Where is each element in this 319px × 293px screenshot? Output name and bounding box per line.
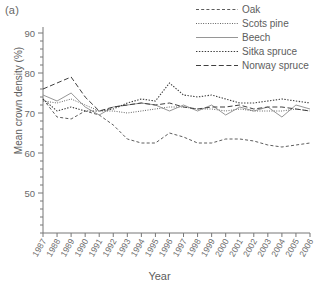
series-line-oak	[43, 99, 310, 147]
series-line-scots-pine	[43, 99, 310, 113]
chart-plot-area: 5060708090198719881989199019911992199319…	[0, 0, 319, 293]
y-axis-tick-label: 90	[24, 28, 35, 39]
y-axis-tick-label: 80	[24, 68, 35, 79]
y-axis-tick-label: 50	[24, 188, 35, 199]
x-axis-tick-label: 2006	[297, 237, 315, 259]
figure-panel-a: (a) OakScots pineBeechSitka spruceNorway…	[0, 0, 319, 293]
x-axis-title: Year	[0, 270, 319, 282]
series-line-norway-spruce	[43, 77, 310, 111]
y-axis-tick-label: 70	[24, 108, 35, 119]
y-axis-tick-label: 60	[24, 148, 35, 159]
y-axis-title: Mean crown density (%)	[13, 36, 24, 166]
